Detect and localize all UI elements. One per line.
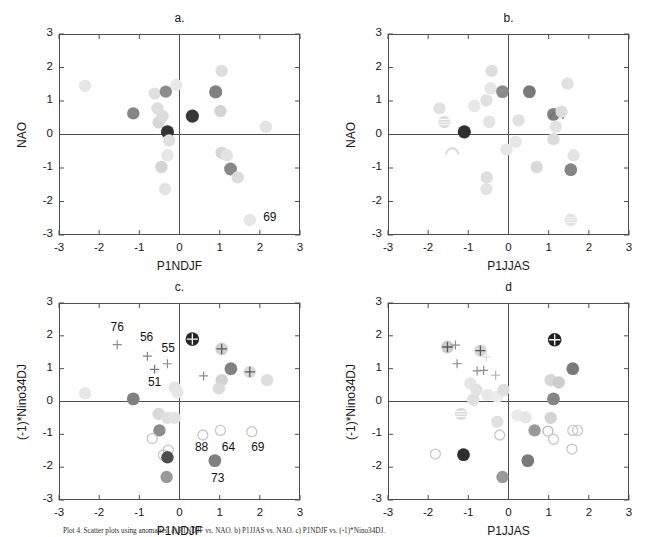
data-point — [544, 412, 556, 424]
data-point — [215, 65, 227, 77]
data-point — [512, 114, 524, 126]
x-tick-label: 1 — [537, 506, 561, 518]
data-point — [555, 106, 567, 118]
data-point — [156, 110, 168, 122]
data-point — [148, 87, 160, 99]
data-point — [159, 183, 171, 195]
data-point — [530, 161, 542, 173]
data-point — [79, 80, 91, 92]
point-label-69: 69 — [255, 210, 285, 224]
data-point — [496, 85, 509, 98]
x-tick-label: -3 — [376, 506, 400, 518]
data-point — [147, 434, 157, 444]
x-tick-label: -2 — [87, 506, 111, 518]
point-label-88: 88 — [187, 440, 217, 454]
x-tick-label: 1 — [208, 241, 232, 253]
y-tick-label: -1 — [29, 426, 53, 438]
data-point — [441, 341, 454, 354]
data-point — [79, 387, 91, 399]
data-point — [474, 344, 486, 356]
y-tick-label: 0 — [358, 127, 382, 139]
y-tick-label: -2 — [29, 459, 53, 471]
data-point — [161, 149, 173, 161]
y-tick-label: -3 — [358, 492, 382, 504]
x-tick-label: -1 — [127, 506, 151, 518]
data-point — [453, 359, 462, 368]
data-point — [113, 340, 122, 349]
data-point — [479, 366, 488, 375]
data-point — [163, 359, 172, 368]
data-point — [550, 121, 562, 133]
x-tick-label: -3 — [47, 506, 71, 518]
panel-b-y-axis-label: NAO — [344, 121, 358, 147]
data-point — [213, 382, 225, 394]
data-point — [523, 85, 536, 98]
x-tick-label: 0 — [497, 506, 521, 518]
data-point — [163, 134, 175, 146]
panel-d-y-axis-label: (-1)*Nino34DJ — [344, 363, 358, 439]
y-tick-label: 0 — [358, 394, 382, 406]
data-point — [438, 116, 450, 128]
data-point — [168, 412, 180, 424]
data-point — [186, 332, 200, 346]
data-point — [548, 434, 558, 444]
data-point — [521, 454, 534, 467]
panel-a-title: a. — [150, 11, 210, 25]
data-point — [519, 411, 531, 423]
y-tick-label: 2 — [29, 328, 53, 340]
data-point — [497, 384, 509, 396]
y-tick-label: 1 — [29, 361, 53, 373]
y-tick-label: 1 — [358, 361, 382, 373]
y-tick-label: 3 — [29, 295, 53, 307]
y-tick-label: -2 — [358, 194, 382, 206]
data-point — [468, 100, 480, 112]
y-tick-label: 1 — [358, 93, 382, 105]
data-point — [473, 366, 482, 375]
y-tick-label: 2 — [358, 328, 382, 340]
data-point — [457, 448, 470, 461]
data-point — [221, 149, 233, 161]
panel-c-plot-area — [59, 303, 300, 500]
point-label-55: 55 — [153, 341, 183, 355]
data-point — [214, 105, 226, 117]
x-tick-label: -2 — [416, 506, 440, 518]
data-point — [127, 392, 140, 405]
data-point — [458, 125, 471, 138]
data-point — [483, 116, 495, 128]
data-point — [247, 427, 257, 437]
data-point — [547, 133, 559, 145]
y-tick-label: -3 — [358, 227, 382, 239]
data-point — [150, 365, 159, 374]
data-point — [199, 371, 208, 380]
point-label-64: 64 — [214, 440, 244, 454]
data-point — [198, 430, 208, 440]
data-point — [430, 449, 440, 459]
x-tick-label: 2 — [577, 241, 601, 253]
panel-c-y-axis-label: (-1)*Nino34DJ — [15, 363, 29, 439]
data-point — [480, 94, 492, 106]
data-point — [232, 171, 244, 183]
x-tick-label: 0 — [497, 241, 521, 253]
data-point — [161, 451, 173, 463]
panel-a-x-axis-label: P1NDJF — [120, 259, 240, 273]
data-point — [491, 371, 500, 380]
data-point — [433, 102, 445, 114]
y-tick-label: -3 — [29, 492, 53, 504]
data-point — [485, 65, 497, 77]
y-tick-label: 3 — [358, 295, 382, 307]
data-point — [496, 471, 508, 483]
data-point — [208, 454, 221, 467]
y-tick-label: -2 — [29, 194, 53, 206]
data-point — [260, 121, 272, 133]
data-point — [548, 333, 562, 347]
panel-a: 69 — [59, 34, 300, 235]
data-point — [547, 392, 560, 405]
figure-caption: Plot 4. Scatter plots using anomalies. a… — [63, 527, 623, 537]
y-tick-label: -3 — [29, 227, 53, 239]
data-point — [455, 408, 467, 420]
y-tick-label: -1 — [358, 426, 382, 438]
panel-b-plot-area — [388, 34, 629, 235]
data-point — [155, 161, 167, 173]
x-tick-label: -1 — [127, 241, 151, 253]
x-tick-label: 2 — [248, 241, 272, 253]
